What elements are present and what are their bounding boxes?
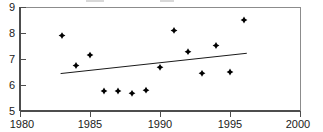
data-point: [115, 88, 122, 95]
data-point: [171, 27, 178, 34]
data-point: [101, 88, 108, 95]
scatter-plot: 9 8 7 6 5 1980 1985 1990 1995 2000: [0, 0, 323, 132]
trend-line: [61, 53, 247, 73]
data-point: [157, 64, 164, 71]
data-point: [227, 69, 234, 76]
page-scan-artifacts: [86, 0, 174, 2]
y-tick-label-9: 9: [9, 1, 15, 13]
x-axis: 1980 1985 1990 1995 2000: [10, 111, 310, 130]
data-point: [199, 70, 206, 77]
x-tick-label-1980: 1980: [10, 118, 34, 130]
y-tick-label-7: 7: [9, 53, 15, 65]
data-point: [143, 87, 150, 94]
data-point: [129, 90, 136, 97]
x-tick-label-1995: 1995: [218, 118, 242, 130]
y-tick-label-8: 8: [9, 27, 15, 39]
data-point: [87, 52, 94, 59]
plot-frame: [20, 7, 300, 111]
y-tick-label-5: 5: [9, 105, 15, 117]
x-tick-label-2000: 2000: [286, 118, 310, 130]
y-axis: 9 8 7 6 5: [9, 1, 26, 117]
data-point: [59, 32, 66, 39]
y-tick-label-6: 6: [9, 79, 15, 91]
chart-container: 9 8 7 6 5 1980 1985 1990 1995 2000: [0, 0, 323, 132]
x-tick-label-1985: 1985: [78, 118, 102, 130]
data-point: [185, 48, 192, 55]
data-point: [73, 62, 80, 69]
data-point: [241, 17, 248, 24]
x-tick-label-1990: 1990: [148, 118, 172, 130]
data-point: [213, 42, 220, 49]
